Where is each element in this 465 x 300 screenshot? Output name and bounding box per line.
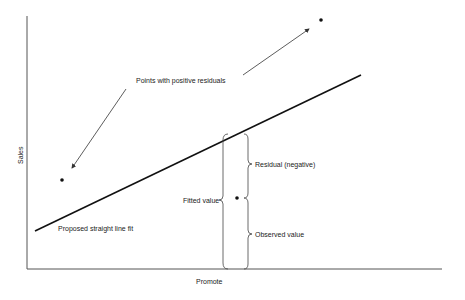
fitted-value-label: Fitted value [183, 197, 219, 204]
residual-negative-label: Residual (negative) [255, 161, 315, 168]
point-negative-residual [235, 196, 239, 200]
observed-value-brace [244, 198, 252, 269]
residual-brace [244, 134, 252, 198]
observed-value-label: Observed value [255, 231, 304, 238]
fit-line-label: Proposed straight line fit [58, 225, 133, 232]
x-axis-label: Promote [196, 278, 222, 285]
point-positive-right [319, 18, 323, 22]
fitted-value-brace [219, 134, 228, 269]
diagram-canvas [0, 0, 465, 300]
positive-residuals-label: Points with positive residuals [136, 77, 226, 84]
y-axis-label: Sales [17, 146, 24, 164]
fit-line [35, 75, 361, 231]
arrow-to-left-point [72, 89, 126, 168]
point-positive-left [60, 178, 64, 182]
arrow-to-right-point [243, 29, 309, 75]
